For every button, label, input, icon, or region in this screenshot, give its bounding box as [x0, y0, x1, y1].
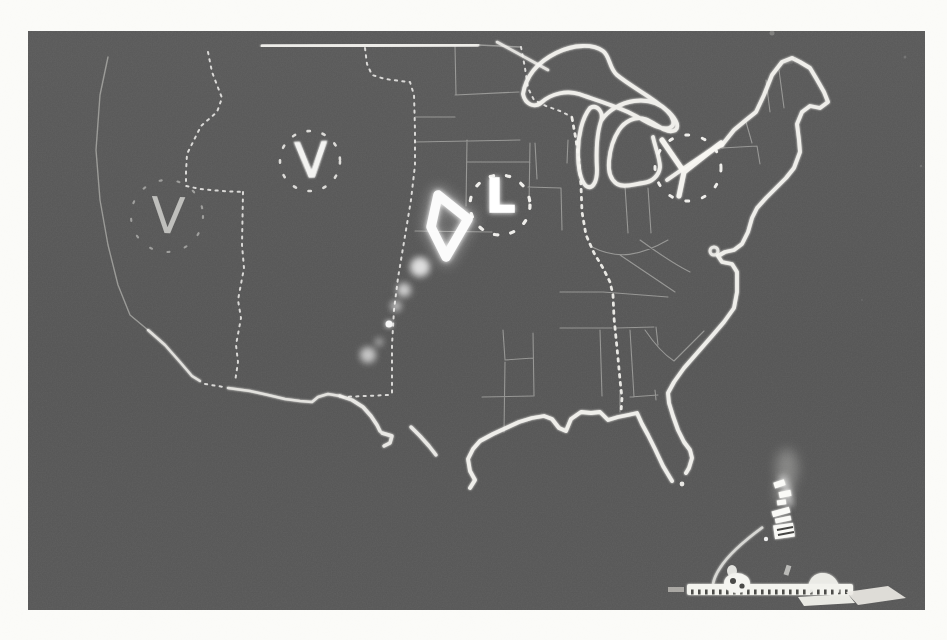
console-dot — [764, 537, 768, 541]
florida-keys-dot — [680, 482, 685, 487]
dust-speck — [904, 56, 907, 59]
photo-page: V V L — [0, 0, 947, 640]
hand-shadow-hole — [730, 578, 736, 584]
dust-speck — [794, 57, 796, 59]
dust-speck — [920, 165, 922, 167]
echo-blob — [410, 257, 430, 277]
marker-letter-midwest: L — [486, 169, 515, 223]
dust-smudge — [783, 60, 793, 65]
dust-speck — [861, 299, 863, 301]
echo-blob — [397, 283, 411, 297]
hand-shadow-hole — [739, 583, 744, 588]
photo-canvas: V V L — [0, 0, 947, 640]
marker-letter-west: V — [150, 186, 186, 245]
canada-border-line — [262, 45, 478, 46]
hand-highlight — [724, 573, 750, 593]
echo-blob — [375, 338, 383, 346]
dust-speck — [770, 31, 775, 36]
echo-blob — [391, 301, 402, 312]
echo-blob — [386, 321, 393, 328]
switch-block — [773, 523, 795, 540]
keyboard-left-glint — [668, 587, 684, 592]
marker-letter-plains: V — [294, 131, 329, 188]
hand-highlight-knuckle — [727, 565, 737, 577]
echo-blob — [360, 347, 376, 363]
